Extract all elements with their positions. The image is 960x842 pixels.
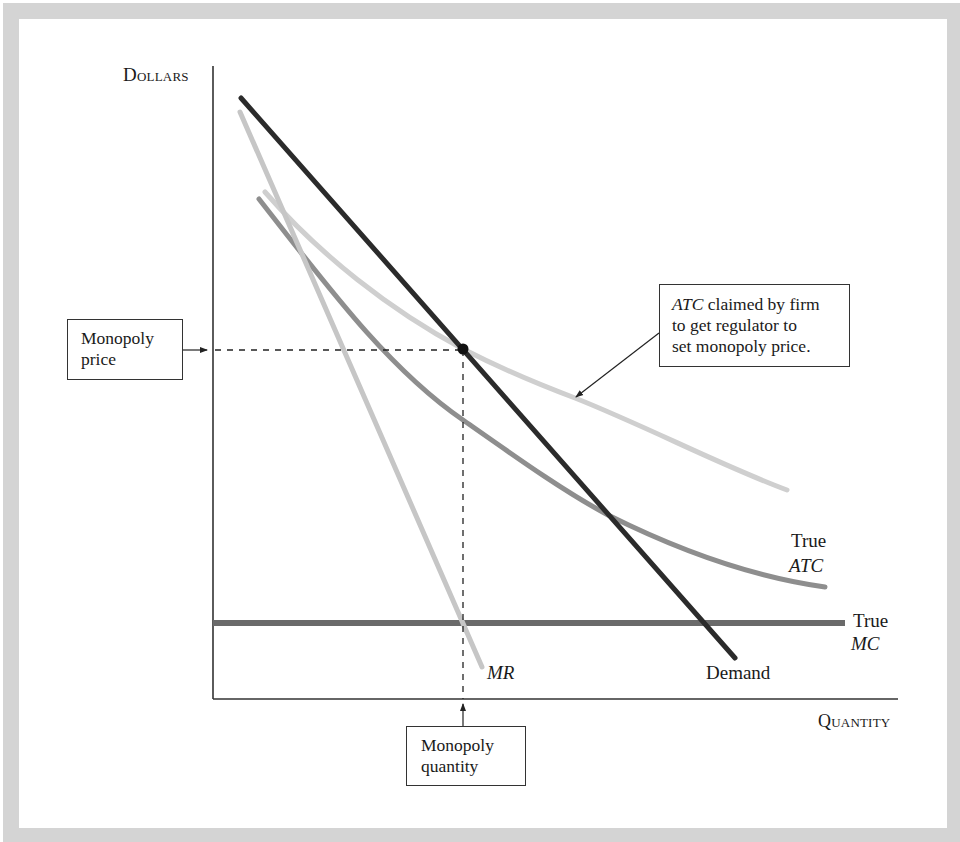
monopoly-point [458,344,469,355]
monopoly-price-line1: Monopoly [81,328,169,349]
monopoly-quantity-line1: Monopoly [421,735,511,756]
true-mc-label-line2: MC [851,633,880,655]
claimed-atc-italic: ATC [672,294,703,314]
y-axis-label: Dollars [123,64,189,86]
monopoly-price-callout: Monopoly price [67,319,183,380]
mr-label: MR [487,662,514,684]
true-atc-label-line2: ATC [789,555,823,577]
true-mc-label-line1: True [853,610,888,632]
true-atc-label-line1: True [791,530,826,552]
claimed-atc-arrow [576,333,659,397]
claimed-atc-line2: to get regulator to [672,315,837,336]
chart-canvas [0,0,960,842]
demand-line [241,98,735,658]
claimed-atc-callout: ATC claimed by firm to get regulator to … [659,284,850,367]
monopoly-price-line2: price [81,349,169,370]
claimed-atc-line1-rest: claimed by firm [703,294,819,314]
claimed-atc-line3: set monopoly price. [672,336,837,357]
mr-line [240,112,482,667]
monopoly-quantity-callout: Monopoly quantity [406,726,526,786]
true-atc-curve [259,199,825,587]
x-axis-label: Quantity [818,710,890,732]
demand-label: Demand [706,662,770,684]
monopoly-quantity-line2: quantity [421,756,511,777]
claimed-atc-line1: ATC claimed by firm [672,294,837,315]
